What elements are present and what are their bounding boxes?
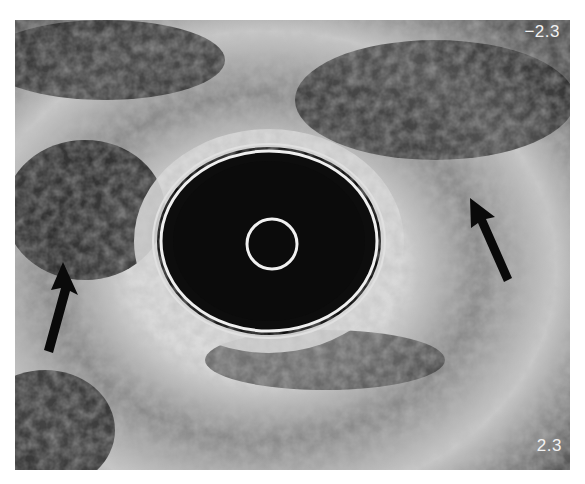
ultrasound-image: −2.3 2.3 [15, 20, 570, 470]
depth-label-top: −2.3 [524, 22, 560, 42]
ultrasound-scan-graphic [15, 20, 570, 470]
depth-label-bottom: 2.3 [537, 436, 562, 456]
